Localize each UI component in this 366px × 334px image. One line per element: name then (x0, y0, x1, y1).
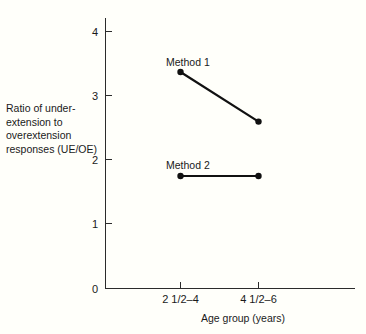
y-axis-title-line-3: overextension (6, 129, 102, 143)
y-axis-title-line-2: extension to (6, 116, 102, 130)
series-label-method-2: Method 2 (166, 159, 210, 171)
y-tick-label-3: 3 (92, 90, 98, 102)
series-method-2-point-1 (255, 173, 261, 179)
y-tick-label-1: 1 (92, 218, 98, 230)
series-method-1-point-1 (255, 118, 261, 124)
x-tick-label-1: 4 1/2–6 (240, 293, 277, 305)
y-tick-label-0: 0 (92, 283, 98, 295)
series-label-method-1: Method 1 (166, 56, 210, 68)
series-method-1-point-0 (177, 69, 183, 75)
y-axis-title: Ratio of under- extension to overextensi… (6, 102, 102, 156)
chart-figure: 4 3 2 1 0 2 1/2–4 4 1/2–6 Age group (yea… (0, 0, 366, 334)
series-method-2-point-0 (177, 173, 183, 179)
y-axis-title-line-1: Ratio of under- (6, 102, 102, 116)
y-tick-label-4: 4 (92, 26, 98, 38)
y-axis-title-line-4: responses (UE/OE) (6, 143, 102, 157)
line-chart-plot: 4 3 2 1 0 2 1/2–4 4 1/2–6 Age group (yea… (0, 0, 366, 334)
x-tick-label-0: 2 1/2–4 (162, 293, 199, 305)
x-axis-title: Age group (years) (201, 312, 285, 324)
